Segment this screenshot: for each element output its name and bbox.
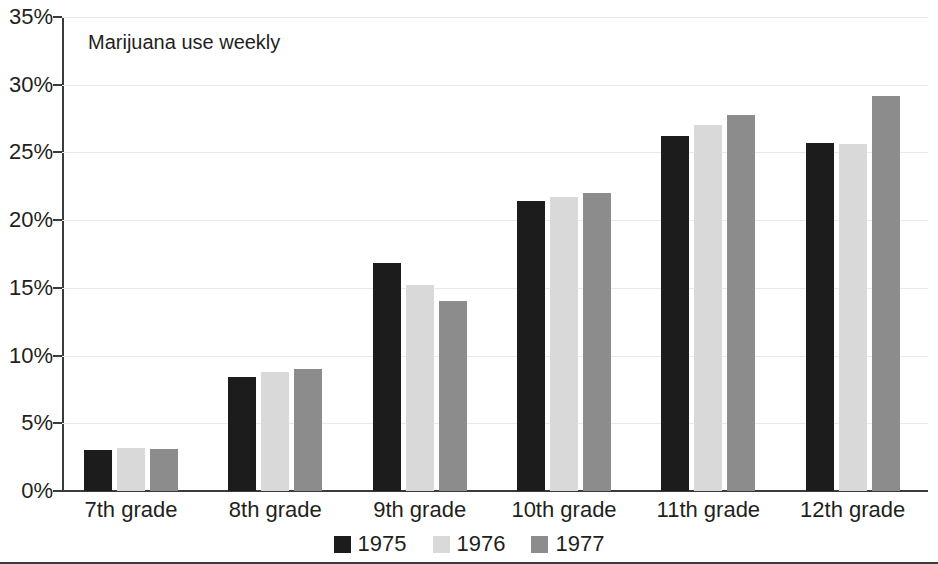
bar [117,448,145,491]
bar [150,449,178,491]
bar [228,377,256,491]
x-axis-tick-label: 9th grade [373,497,466,523]
legend-item: 1976 [433,533,506,555]
legend-swatch-icon [531,536,548,553]
legend-swatch-icon [433,536,450,553]
y-axis-tick [53,151,62,153]
x-axis-tick-label: 8th grade [229,497,322,523]
y-axis-labels: 0%5%10%15%20%25%30%35% [0,17,53,492]
bar-chart-figure: Marijuana use weekly 0%5%10%15%20%25%30%… [0,0,938,564]
bar [839,144,867,491]
chart-legend: 197519761977 [0,533,938,555]
x-axis-tick-label: 7th grade [85,497,178,523]
gridline [62,152,928,153]
y-axis-tick-label: 10% [1,345,53,367]
y-axis-tick [53,355,62,357]
bar [806,143,834,491]
bar [373,263,401,491]
bar [583,193,611,491]
bar [550,197,578,491]
bar [727,115,755,491]
gridline [62,85,928,86]
y-axis-tick [53,219,62,221]
gridline [62,356,928,357]
y-axis-tick [53,287,62,289]
y-axis-tick [53,422,62,424]
y-axis-tick [53,490,62,492]
y-axis-tick [53,16,62,18]
y-axis-tick-label: 5% [1,412,53,434]
bar [872,96,900,491]
y-axis-tick-label: 35% [1,6,53,28]
plot-area [62,17,928,491]
y-axis-tick-label: 0% [1,480,53,502]
bar [261,372,289,491]
bar [439,301,467,491]
gridline [62,220,928,221]
legend-label: 1976 [457,533,506,555]
legend-label: 1977 [555,533,604,555]
bar [84,450,112,491]
bar [406,285,434,491]
y-axis-tick-label: 25% [1,141,53,163]
gridline [62,288,928,289]
y-axis-tick-label: 20% [1,209,53,231]
x-axis-tick-label: 12th grade [800,497,905,523]
bar [517,201,545,491]
y-axis-tick-label: 30% [1,74,53,96]
y-axis-tick-label: 15% [1,277,53,299]
x-axis-tick-label: 10th grade [511,497,616,523]
gridline [62,17,928,18]
legend-swatch-icon [334,536,351,553]
x-axis-labels: 7th grade8th grade9th grade10th grade11t… [62,497,928,529]
legend-item: 1977 [531,533,604,555]
y-axis-tick [53,84,62,86]
bar [661,136,689,491]
bar [694,125,722,491]
x-axis-tick-label: 11th grade [657,497,761,523]
legend-item: 1975 [334,533,407,555]
bar [294,369,322,491]
legend-label: 1975 [358,533,407,555]
gridline [62,423,928,424]
